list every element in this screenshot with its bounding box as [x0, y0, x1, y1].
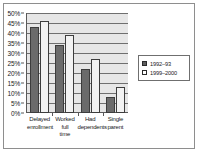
bar-group	[27, 13, 52, 113]
bar-group	[103, 13, 128, 113]
y-axis-tick-label: 20%	[8, 70, 20, 77]
bar	[116, 87, 125, 113]
x-axis-category-label: Workedfulltime	[52, 116, 77, 139]
y-axis-tick	[21, 13, 24, 14]
bar	[30, 27, 39, 113]
y-axis-tick-label: 5%	[11, 100, 20, 107]
bar	[106, 97, 115, 113]
y-axis-tick	[21, 83, 24, 84]
legend-label: 1992–93	[150, 61, 171, 67]
y-axis-tick-label: 40%	[8, 30, 20, 37]
legend-swatch-icon	[142, 70, 147, 75]
legend-item: 1992–93	[142, 59, 186, 68]
x-axis-category-label: Haddependents	[78, 116, 103, 131]
legend: 1992–93 1999–2000	[138, 55, 190, 81]
bar	[81, 69, 90, 113]
x-axis-category-label: Singleparent	[103, 116, 128, 131]
bar-group	[52, 13, 77, 113]
bar	[91, 59, 100, 113]
y-axis-tick-label: 0%	[11, 110, 20, 117]
y-axis-tick	[21, 113, 24, 114]
bars-layer	[27, 13, 128, 113]
y-axis-tick-label: 10%	[8, 90, 20, 97]
y-axis-tick-label: 15%	[8, 80, 20, 87]
y-axis-tick	[21, 53, 24, 54]
y-axis-tick-label: 50%	[8, 10, 20, 17]
y-axis-tick-label: 35%	[8, 40, 20, 47]
chart-figure: 0%5%10%15%20%25%30%35%40%45%50% Delayede…	[0, 0, 199, 153]
x-axis-category-label: Delayedenrollment	[27, 116, 52, 131]
y-axis-tick	[21, 33, 24, 34]
y-axis-tick-label: 30%	[8, 50, 20, 57]
y-axis-tick	[21, 93, 24, 94]
legend-label: 1999–2000	[150, 70, 177, 76]
bar	[55, 45, 64, 113]
bar	[40, 21, 49, 113]
y-axis-tick-label: 25%	[8, 60, 20, 67]
legend-swatch-icon	[142, 61, 147, 66]
y-axis: 0%5%10%15%20%25%30%35%40%45%50%	[0, 13, 24, 113]
y-axis-tick	[21, 103, 24, 104]
bar	[65, 35, 74, 113]
bar-group	[78, 13, 103, 113]
legend-item: 1999–2000	[142, 68, 186, 77]
y-axis-tick	[21, 73, 24, 74]
y-axis-tick	[21, 23, 24, 24]
y-axis-tick-label: 45%	[8, 20, 20, 27]
y-axis-tick	[21, 63, 24, 64]
x-axis-labels: DelayedenrollmentWorkedfulltimeHaddepend…	[22, 116, 134, 148]
y-axis-tick	[21, 43, 24, 44]
